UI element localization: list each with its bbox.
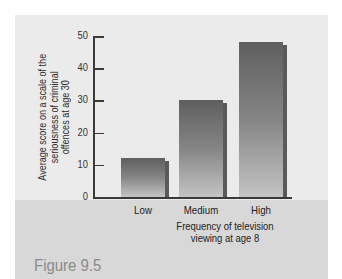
- x-axis-label-line-1: Frequency of television: [152, 220, 298, 232]
- y-tick-40: [94, 68, 104, 70]
- y-tick-label-10: 10: [64, 158, 88, 170]
- y-tick-50: [94, 36, 104, 38]
- bar-shadow-high: [283, 45, 287, 197]
- y-tick-label-30: 30: [64, 93, 88, 105]
- bar-low: [121, 158, 165, 197]
- y-tick-30: [94, 100, 104, 102]
- y-axis-label-line-3: offences at age 30: [60, 36, 72, 199]
- y-tick-label-40: 40: [64, 61, 88, 73]
- bar-shadow-medium: [223, 103, 227, 197]
- y-tick-20: [94, 133, 104, 135]
- x-axis: [93, 197, 292, 199]
- x-axis-label-line-2: viewing at age 8: [152, 232, 298, 244]
- bar-medium: [179, 100, 223, 197]
- y-tick-10: [94, 165, 104, 167]
- y-tick-label-0: 0: [64, 190, 88, 202]
- y-tick-label-50: 50: [64, 29, 88, 41]
- x-category-medium: Medium: [175, 204, 228, 216]
- bar-high: [239, 42, 283, 197]
- y-tick-label-20: 20: [64, 126, 88, 138]
- bar-shadow-low: [165, 161, 169, 197]
- figure-caption: Figure 9.5: [34, 256, 101, 276]
- x-axis-label: Frequency of television viewing at age 8: [140, 220, 310, 244]
- x-category-high: High: [235, 204, 288, 216]
- x-category-low: Low: [117, 204, 170, 216]
- y-axis: [93, 36, 95, 198]
